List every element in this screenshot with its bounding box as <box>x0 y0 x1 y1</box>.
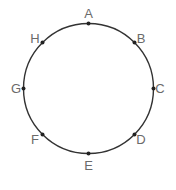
point-e: E <box>84 152 93 174</box>
point-label: B <box>137 31 146 46</box>
point-label: C <box>155 81 164 96</box>
point-h: H <box>30 31 44 46</box>
point-f: F <box>31 132 44 147</box>
point-d: D <box>133 132 146 147</box>
point-dot <box>41 133 45 137</box>
circle-diagram: A B C D E F G H <box>0 0 176 190</box>
point-label: H <box>30 31 39 46</box>
point-dot <box>22 87 26 91</box>
point-a: A <box>84 6 93 26</box>
point-label: E <box>84 158 93 173</box>
point-dot <box>41 41 45 45</box>
point-dot <box>87 22 91 26</box>
point-label: A <box>84 6 93 21</box>
point-dot <box>87 152 91 156</box>
point-b: B <box>133 31 146 46</box>
point-label: D <box>136 132 145 147</box>
point-label: F <box>31 132 39 147</box>
point-label: G <box>11 81 21 96</box>
